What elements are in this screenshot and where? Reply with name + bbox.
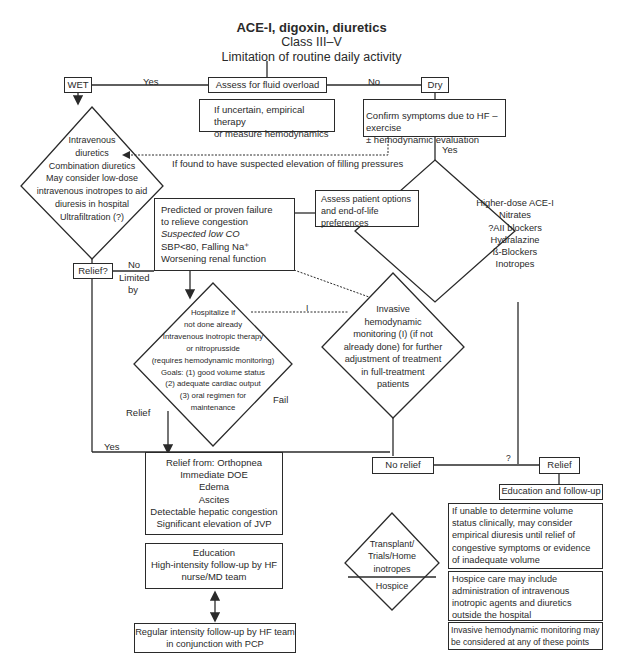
higher-dose-line: Nitrates bbox=[465, 209, 565, 221]
edge-label-yes-confirm: Yes bbox=[442, 144, 458, 156]
relief-from-node: Relief from: Orthopnea Immediate DOE Ede… bbox=[145, 452, 283, 535]
hospice-care-line: administration of intravenous bbox=[452, 585, 602, 597]
hospice-care-line: inotropic agents and diuretics bbox=[452, 597, 602, 609]
predicted-line-5: Worsening renal function bbox=[161, 253, 294, 265]
transplant-line: Transplant/ bbox=[352, 538, 432, 550]
relief-from-line: Edema bbox=[146, 481, 282, 493]
hospitalize-line: Hospitalize if bbox=[148, 307, 278, 319]
edge-label-i: I bbox=[306, 302, 308, 314]
higher-dose-node: Higher-dose ACE-I Nitrates ?AII blockers… bbox=[465, 197, 565, 271]
iv-diuretics-line: Combination diuretics bbox=[32, 160, 152, 173]
transplant-node: Transplant/ Trials/Home inotropes bbox=[352, 538, 432, 575]
edge-label-yes-wet: Yes bbox=[143, 76, 159, 88]
edge-label-limited: Limited bbox=[119, 272, 150, 284]
education-high-intensity-node: Education High-intensity follow-up by HF… bbox=[145, 543, 283, 589]
invasive-line: already done) for further bbox=[338, 341, 448, 354]
unable-determine-line: congestive symptoms or evidence bbox=[452, 542, 602, 554]
education-high-line: High-intensity follow-up by HF bbox=[146, 559, 282, 571]
invasive-note-line: be considered at any of these points bbox=[451, 636, 602, 648]
predicted-line-4: SBP<80, Falling Na⁺ bbox=[161, 241, 294, 253]
regular-followup-node: Regular intensity follow-up by HF team i… bbox=[134, 623, 296, 653]
iv-diuretics-line: diuretics bbox=[32, 147, 152, 160]
unable-determine-line: empirical diuresis until relief of bbox=[452, 529, 602, 541]
iv-diuretics-line: Intravenous bbox=[32, 134, 152, 147]
uncertain-line-1: If uncertain, empirical therapy bbox=[214, 104, 334, 128]
predicted-failure-node: Predicted or proven failure to relieve c… bbox=[154, 198, 295, 271]
relief-node: Relief bbox=[539, 457, 580, 474]
higher-dose-line: Hydralazine bbox=[465, 234, 565, 246]
hospitalize-node: Hospitalize if not done already Intraven… bbox=[148, 307, 278, 414]
chart-title: ACE-I, digoxin, diuretics bbox=[0, 20, 623, 35]
dry-node: Dry bbox=[421, 77, 449, 93]
confirm-line-1: Confirm symptoms due to HF – exercise bbox=[366, 110, 505, 134]
predicted-line-1: Predicted or proven failure bbox=[161, 204, 294, 216]
relief-from-line: Significant elevation of JVP bbox=[146, 518, 282, 530]
hospitalize-line: (3) oral regimen for bbox=[148, 390, 278, 402]
predicted-line-2: to relieve congestion bbox=[161, 216, 294, 228]
relief-question-node: Relief? bbox=[73, 263, 113, 279]
edge-label-relief: Relief bbox=[126, 407, 150, 419]
invasive-line: Invasive bbox=[338, 303, 448, 316]
unable-determine-line: status clinically, may consider bbox=[452, 517, 602, 529]
hospitalize-line: Goals: (1) good volume status bbox=[148, 367, 278, 379]
education-high-line: Education bbox=[146, 547, 282, 559]
chart-subtitle-limitation: Limitation of routine daily activity bbox=[0, 50, 623, 64]
edge-label-no: No bbox=[128, 259, 140, 271]
invasive-line: patients bbox=[338, 378, 448, 391]
edge-label-filling-pressures: If found to have suspected elevation of … bbox=[172, 158, 403, 170]
hospitalize-line: (2) adequate cardiac output bbox=[148, 378, 278, 390]
edge-label-yes-bottom: Yes bbox=[104, 441, 120, 453]
edge-label-fail: Fail bbox=[273, 394, 288, 406]
unable-determine-line: of inadequate volume bbox=[452, 554, 602, 566]
higher-dose-line: ß-Blockers bbox=[465, 246, 565, 258]
invasive-line: in full-treatment bbox=[338, 366, 448, 379]
education-high-line: nurse/MD team bbox=[146, 571, 282, 583]
hospitalize-line: Intravenous inotropic therapy bbox=[148, 331, 278, 343]
transplant-line: Trials/Home bbox=[352, 550, 432, 562]
uncertain-node: If uncertain, empirical therapy or measu… bbox=[199, 99, 335, 132]
regular-followup-line: in conjunction with PCP bbox=[135, 638, 295, 650]
chart-subtitle-class: Class III–V bbox=[0, 35, 623, 49]
assess-options-line: preferences bbox=[321, 218, 418, 230]
confirm-line-2: ± hemodynamic evaluation bbox=[366, 134, 505, 146]
invasive-line: monitoring (I) (if not bbox=[338, 328, 448, 341]
assess-options-line: Assess patient options bbox=[321, 194, 418, 206]
higher-dose-line: Higher-dose ACE-I bbox=[465, 197, 565, 209]
iv-diuretics-line: diuresis in hospital bbox=[32, 198, 152, 211]
higher-dose-line: ?AII blockers bbox=[465, 222, 565, 234]
confirm-hf-node: Confirm symptoms due to HF – exercise ± … bbox=[363, 99, 506, 137]
iv-diuretics-line: Ultrafiltration (?) bbox=[32, 211, 152, 224]
relief-from-line: Immediate DOE bbox=[146, 469, 282, 481]
wet-node: WET bbox=[64, 77, 92, 93]
relief-from-line: Detectable hepatic congestion bbox=[146, 506, 282, 518]
unable-determine-node: If unable to determine volume status cli… bbox=[448, 503, 603, 569]
edge-label-question: ? bbox=[506, 452, 511, 464]
invasive-line: adjustment of treatment bbox=[338, 353, 448, 366]
hospitalize-line: (requires hemodynamic monitoring) bbox=[148, 355, 278, 367]
predicted-line-3: Suspected low CO bbox=[161, 228, 294, 240]
invasive-line: hemodynamic bbox=[338, 316, 448, 329]
assess-options-node: Assess patient options and end-of-life p… bbox=[315, 190, 419, 227]
hospice-care-line: Hospice care may include bbox=[452, 573, 602, 585]
unable-determine-line: If unable to determine volume bbox=[452, 505, 602, 517]
assess-options-line: and end-of-life bbox=[321, 206, 418, 218]
relief-from-line: Relief from: Orthopnea bbox=[146, 457, 282, 469]
invasive-note-node: Invasive hemodynamic monitoring may be c… bbox=[448, 622, 603, 650]
transplant-line: inotropes bbox=[352, 563, 432, 575]
hospice-care-node: Hospice care may include administration … bbox=[448, 571, 603, 621]
hospitalize-line: maintenance bbox=[148, 402, 278, 414]
edge-label-by: by bbox=[128, 284, 138, 296]
regular-followup-line: Regular intensity follow-up by HF team bbox=[135, 626, 295, 638]
hospice-care-line: outside the hospital bbox=[452, 609, 602, 621]
invasive-note-line: Invasive hemodynamic monitoring may bbox=[451, 624, 602, 636]
education-followup-node: Education and follow-up bbox=[499, 484, 603, 500]
iv-diuretics-line: intravenous inotropes to aid bbox=[32, 185, 152, 198]
no-relief-node: No relief bbox=[372, 457, 434, 474]
hospitalize-line: not done already bbox=[148, 319, 278, 331]
relief-from-line: Ascites bbox=[146, 494, 282, 506]
hospice-node: Hospice bbox=[352, 580, 432, 592]
uncertain-line-2: or measure hemodynamics bbox=[214, 128, 334, 140]
iv-diuretics-line: May consider low-dose bbox=[32, 172, 152, 185]
iv-diuretics-node: Intravenous diuretics Combination diuret… bbox=[32, 134, 152, 224]
higher-dose-line: Inotropes bbox=[465, 258, 565, 270]
